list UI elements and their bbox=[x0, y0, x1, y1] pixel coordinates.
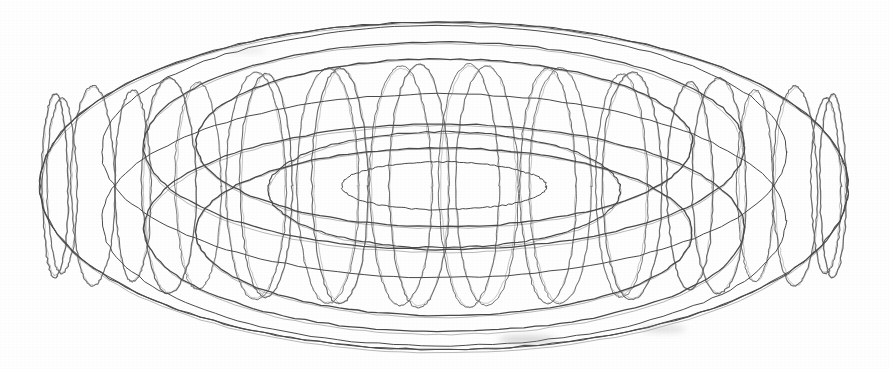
meridian-11-second-pass bbox=[114, 90, 150, 280]
meridian-circle-group bbox=[41, 63, 846, 307]
meridian-07 bbox=[388, 64, 449, 308]
torus-wireframe-svg: Torus wireframe sketch Hand-drawn pencil… bbox=[0, 0, 889, 369]
meridian-10-second-pass bbox=[176, 83, 222, 289]
meridian-05-second-pass bbox=[530, 69, 591, 303]
torus-figure: Torus wireframe sketch Hand-drawn pencil… bbox=[0, 0, 889, 369]
latitude-throat-ring-second-pass bbox=[269, 133, 621, 250]
latitude-mid-ring-lower-second-pass bbox=[145, 125, 745, 335]
meridian-10 bbox=[174, 82, 221, 290]
meridian-01-mirror bbox=[41, 94, 68, 278]
meridian-06 bbox=[456, 66, 519, 306]
meridian-11-mirror-second-pass bbox=[739, 92, 775, 282]
latitude-outer-silhouette bbox=[39, 22, 848, 349]
latitude-mid-ring-upper bbox=[143, 42, 744, 250]
latitude-throat-ring bbox=[268, 131, 621, 247]
meridian-06-second-pass bbox=[455, 66, 516, 303]
meridian-05 bbox=[529, 68, 592, 304]
meridian-04 bbox=[601, 72, 662, 300]
